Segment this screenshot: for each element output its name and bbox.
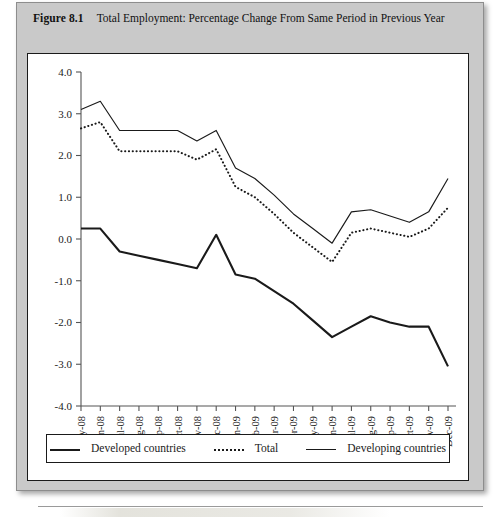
legend-item[interactable]: Developed countries	[50, 442, 186, 455]
series-line	[81, 122, 448, 262]
y-tick-label: 1.0	[58, 191, 72, 203]
chart-legend: Developed countriesTotalDeveloping count…	[46, 434, 450, 463]
figure-page: Figure 8.1 Total Employment: Percentage …	[0, 0, 501, 520]
series-line	[81, 101, 448, 243]
page-bottom-rule	[38, 506, 483, 507]
y-tick-label: -1.0	[55, 275, 73, 287]
legend-item[interactable]: Total	[214, 442, 278, 455]
line-solid-thick-icon	[50, 444, 80, 454]
y-tick-label: -3.0	[55, 358, 73, 370]
y-tick-label: 4.0	[58, 66, 72, 78]
legend-item[interactable]: Developing countries	[306, 442, 446, 455]
series-line	[81, 229, 448, 367]
figure-caption: Figure 8.1 Total Employment: Percentage …	[33, 11, 485, 26]
y-tick-label: 3.0	[58, 108, 72, 120]
legend-item-label: Developed countries	[91, 442, 186, 455]
line-dotted-icon	[214, 444, 244, 454]
y-tick-label: -2.0	[55, 316, 73, 328]
legend-item-label: Developing countries	[347, 442, 446, 455]
figure-panel: Figure 8.1 Total Employment: Percentage …	[16, 2, 484, 491]
y-tick-label: 0.0	[58, 233, 72, 245]
legend-item-label: Total	[255, 442, 278, 455]
page-bottom-smudge	[60, 508, 390, 517]
y-tick-label: -4.0	[55, 400, 73, 412]
chart-card: 4.03.02.01.00.0-1.0-2.0-3.0-4.0May-08Jun…	[27, 53, 469, 481]
figure-number-label: Figure 8.1	[33, 11, 84, 26]
y-tick-label: 2.0	[58, 149, 72, 161]
line-solid-thin-icon	[306, 444, 336, 454]
line-chart: 4.03.02.01.00.0-1.0-2.0-3.0-4.0May-08Jun…	[28, 54, 468, 480]
figure-caption-text: Total Employment: Percentage Change From…	[97, 11, 485, 26]
plot-area: 4.03.02.01.00.0-1.0-2.0-3.0-4.0May-08Jun…	[28, 54, 468, 480]
